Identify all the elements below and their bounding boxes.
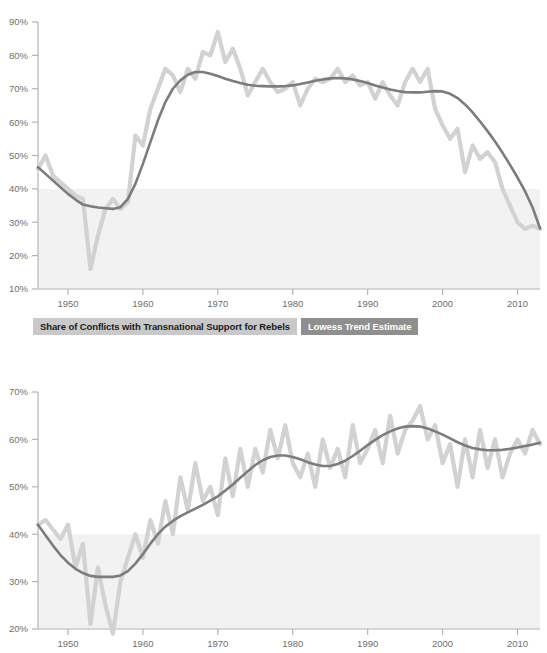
- y-tick-label: 40%: [9, 529, 29, 540]
- plot-area-governments: 20%30%40%50%60%70%1950196019701980199020…: [0, 40, 547, 652]
- y-tick-label: 50%: [9, 481, 29, 492]
- x-tick-label: 1960: [132, 638, 153, 649]
- y-tick-label: 30%: [9, 576, 29, 587]
- y-tick-label: 20%: [9, 623, 29, 634]
- x-tick-label: 2000: [432, 638, 453, 649]
- chart-svg-governments: 20%30%40%50%60%70%1950196019701980199020…: [0, 40, 547, 652]
- x-tick-label: 1990: [357, 638, 378, 649]
- x-tick-label: 2010: [507, 638, 528, 649]
- chart-panel-governments: 20%30%40%50%60%70%1950196019701980199020…: [0, 40, 547, 353]
- shaded-band: [38, 534, 540, 629]
- y-tick-label: 90%: [9, 16, 29, 27]
- y-tick-label: 70%: [9, 386, 29, 397]
- x-tick-label: 1970: [207, 638, 228, 649]
- x-tick-label: 1950: [57, 638, 78, 649]
- x-tick-label: 1980: [282, 638, 303, 649]
- y-tick-label: 60%: [9, 434, 29, 445]
